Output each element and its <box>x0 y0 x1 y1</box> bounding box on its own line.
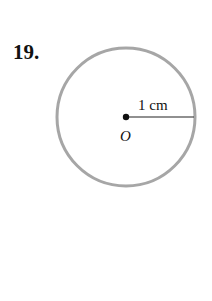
circle-diagram: 1 cm O <box>0 0 212 301</box>
center-point <box>123 114 129 120</box>
center-label: O <box>120 128 131 144</box>
radius-label: 1 cm <box>138 97 168 113</box>
